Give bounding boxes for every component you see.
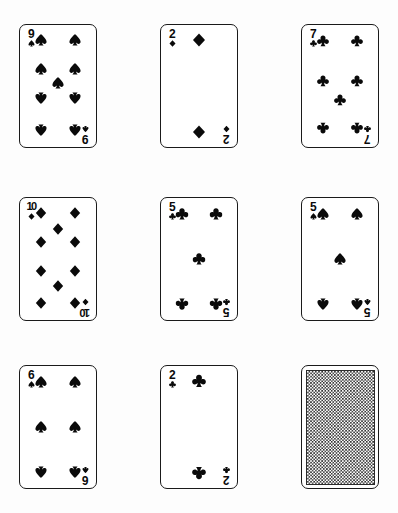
spade-pip-icon	[69, 63, 82, 76]
spade-pip-icon	[69, 421, 82, 434]
club-pip-icon	[351, 35, 363, 47]
card-pip-field	[27, 375, 89, 479]
diamond-pip-icon	[192, 33, 206, 47]
club-pip-icon	[192, 374, 206, 388]
playing-card-10-of-diamonds[interactable]: 1010	[19, 197, 97, 321]
playing-card-2-of-diamonds[interactable]: 22	[160, 24, 238, 148]
spade-pip-icon	[34, 421, 47, 434]
playing-card-9-of-spades[interactable]: 99	[19, 24, 97, 148]
diamond-pip-icon	[69, 265, 81, 277]
spade-pip-icon	[69, 123, 82, 136]
spade-pip-icon	[316, 297, 329, 310]
spade-pip-icon	[34, 92, 47, 105]
diamond-pip-icon	[35, 265, 47, 277]
spade-pip-icon	[34, 34, 47, 47]
spade-pip-icon	[334, 253, 347, 266]
spade-pip-icon	[52, 76, 65, 89]
spade-pip-icon	[34, 376, 47, 389]
spade-pip-icon	[34, 465, 47, 478]
diamond-pip-icon	[69, 236, 81, 248]
spade-pip-icon	[351, 208, 364, 221]
club-pip-icon	[175, 208, 188, 221]
card-grid: 992277101055556622	[0, 0, 398, 513]
club-pip-icon	[317, 35, 329, 47]
club-pip-icon	[175, 297, 188, 310]
spade-pip-icon	[69, 376, 82, 389]
playing-card-5-of-spades[interactable]: 55	[301, 197, 379, 321]
card-back-pattern	[306, 370, 375, 485]
club-pip-icon	[192, 466, 206, 480]
club-pip-icon	[334, 94, 346, 106]
diamond-pip-icon	[52, 280, 64, 292]
card-pip-field	[309, 207, 371, 311]
diamond-pip-icon	[69, 207, 81, 219]
card-pip-field	[27, 34, 89, 138]
spade-pip-icon	[316, 208, 329, 221]
diamond-pip-icon	[69, 297, 81, 309]
card-pip-field	[27, 207, 89, 311]
diamond-pip-icon	[35, 236, 47, 248]
playing-card-7-of-clubs[interactable]: 77	[301, 24, 379, 148]
playing-card-5-of-clubs[interactable]: 55	[160, 197, 238, 321]
diamond-pip-icon	[52, 223, 64, 235]
club-pip-icon	[351, 75, 363, 87]
card-pip-field	[168, 34, 230, 138]
card-pip-field	[168, 207, 230, 311]
spade-pip-icon	[69, 92, 82, 105]
diamond-pip-icon	[35, 207, 47, 219]
spade-pip-icon	[34, 123, 47, 136]
spade-pip-icon	[69, 465, 82, 478]
spade-pip-icon	[69, 34, 82, 47]
spade-pip-icon	[351, 297, 364, 310]
club-pip-icon	[210, 297, 223, 310]
diamond-pip-icon	[35, 297, 47, 309]
club-pip-icon	[193, 253, 206, 266]
playing-card-2-of-clubs[interactable]: 22	[160, 365, 238, 489]
playing-card-back[interactable]	[301, 365, 379, 489]
diamond-pip-icon	[192, 125, 206, 139]
club-pip-icon	[317, 122, 329, 134]
card-pip-field	[168, 375, 230, 479]
club-pip-icon	[317, 75, 329, 87]
card-pip-field	[309, 34, 371, 138]
club-pip-icon	[210, 208, 223, 221]
club-pip-icon	[351, 122, 363, 134]
playing-card-6-of-spades[interactable]: 66	[19, 365, 97, 489]
spade-pip-icon	[34, 63, 47, 76]
